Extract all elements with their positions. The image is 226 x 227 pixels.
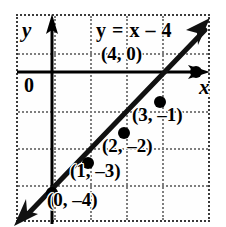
- point-4-0: [190, 66, 202, 78]
- point-3-neg1: [154, 96, 166, 108]
- point-0-neg4: [46, 187, 58, 199]
- line-y-equals-x-minus-4: [14, 18, 210, 226]
- function-line-layer: [0, 0, 226, 227]
- point-1-neg3: [82, 157, 94, 169]
- coordinate-graph-figure: y x 0 y = x – 4 (4, 0) (3, –1) (2, –2) (…: [0, 0, 226, 227]
- point-2-neg2: [118, 127, 130, 139]
- plotted-points: [46, 66, 202, 199]
